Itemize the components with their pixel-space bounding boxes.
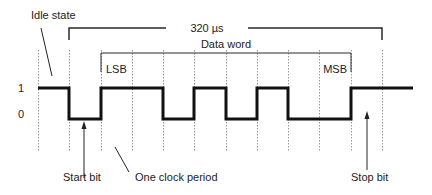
- level-high-label: 1: [18, 82, 24, 94]
- signal-waveform: [38, 88, 413, 119]
- duration-label: 320 µs: [190, 22, 224, 34]
- stop-bit-pointer: [365, 111, 370, 170]
- level-low-label: 0: [18, 108, 24, 120]
- serial-timing-diagram: 320 µs Data word LSB MSB Idle state 1 0 …: [0, 0, 432, 195]
- start-bit-label: Start bit: [63, 171, 101, 183]
- stop-bit-arrow-head: [365, 111, 370, 119]
- msb-label: MSB: [323, 63, 347, 75]
- lsb-label: LSB: [106, 63, 127, 75]
- data-word-bracket: Data word: [101, 38, 351, 72]
- start-bit-pointer: [82, 121, 87, 178]
- duration-bracket-left: [69, 28, 166, 40]
- idle-state-label: Idle state: [31, 9, 76, 21]
- idle-state-pointer: [41, 28, 52, 76]
- clock-period-pointer: [115, 147, 129, 172]
- duration-bracket-right: [248, 28, 382, 40]
- stop-bit-label: Stop bit: [351, 171, 388, 183]
- clock-period-label: One clock period: [135, 171, 218, 183]
- start-bit-arrow-head: [82, 121, 87, 129]
- data-word-label: Data word: [201, 38, 251, 50]
